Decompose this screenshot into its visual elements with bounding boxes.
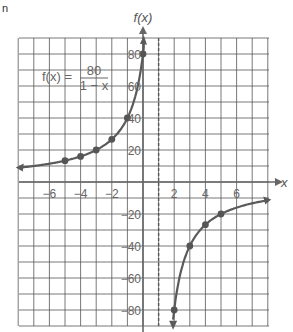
data-point xyxy=(186,243,193,250)
x-tick-label: 4 xyxy=(202,187,209,201)
equation-lhs: f(x) = xyxy=(42,69,72,84)
y-axis-arrow xyxy=(139,26,147,34)
y-tick-label: −80 xyxy=(121,304,142,318)
data-point xyxy=(93,147,100,154)
data-point xyxy=(171,307,178,314)
x-tick-label: −4 xyxy=(74,187,88,201)
y-tick-label: 40 xyxy=(128,112,142,126)
y-tick-label: −60 xyxy=(121,272,142,286)
y-tick-label: 60 xyxy=(128,80,142,94)
curve-left-branch xyxy=(20,39,144,168)
data-point xyxy=(62,157,69,164)
y-tick-label: −20 xyxy=(121,208,142,222)
data-point xyxy=(218,211,225,218)
y-axis-label: f(x) xyxy=(134,10,153,25)
data-point xyxy=(108,136,115,143)
equation-denominator: 1 − x xyxy=(80,78,109,93)
rational-function-chart: −6−4−224680604020−20−40−60−80xf(x)f(x) =… xyxy=(0,0,293,332)
curve-right-down-arrow xyxy=(169,321,177,330)
curve-left-up-arrow xyxy=(140,36,147,45)
x-tick-label: 2 xyxy=(171,187,178,201)
x-tick-label: −6 xyxy=(43,187,57,201)
x-tick-label: 6 xyxy=(233,187,240,201)
data-point xyxy=(77,153,84,160)
x-tick-label: −2 xyxy=(105,187,119,201)
y-tick-label: 80 xyxy=(128,48,142,62)
x-axis-label: x xyxy=(280,175,288,190)
curve-left-arrow xyxy=(16,164,24,172)
y-tick-label: −40 xyxy=(121,240,142,254)
labels: −6−4−224680604020−20−40−60−80xf(x)f(x) =… xyxy=(42,10,288,318)
equation-numerator: 80 xyxy=(87,63,101,78)
data-point xyxy=(202,221,209,228)
y-tick-label: 20 xyxy=(128,144,142,158)
